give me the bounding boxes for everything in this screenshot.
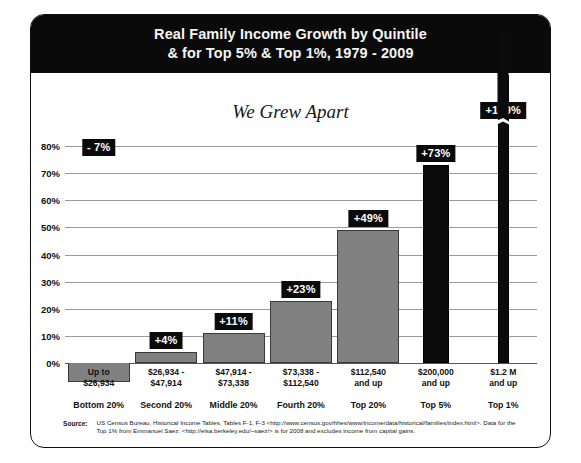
x-axis-category: $26,934 -$47,914Second 20% [128, 367, 204, 388]
x-axis-quintile-label: Top 20% [330, 400, 406, 410]
x-axis-labels: Up to$26,934Bottom 20%$26,934 -$47,914Se… [65, 367, 537, 425]
chart-header-banner: Real Family Income Growth by Quintile & … [31, 15, 550, 73]
bar [270, 301, 332, 363]
chart-card: Real Family Income Growth by Quintile & … [30, 14, 551, 448]
source-text: US Census Bureau, Historical Income Tabl… [97, 419, 516, 436]
source-footnote: Source: US Census Bureau, Historical Inc… [63, 419, 523, 436]
y-axis-tick-label: 10% [41, 330, 60, 341]
x-axis-range-line-2: $47,914 [128, 378, 204, 389]
x-axis-range-line-2: $112,540 [263, 378, 339, 389]
x-axis-range-line-1: $1.2 M [465, 367, 541, 378]
bar-group: +73% [423, 146, 449, 363]
bar-group: +169% [498, 146, 509, 363]
bar-group: - 7% [68, 146, 130, 363]
x-axis-range-line-1: $112,540 [330, 367, 406, 378]
y-axis-tick-label: 30% [41, 276, 60, 287]
source-text-line-2: Top 1% from Emmanuel Saez. <http://elsa.… [97, 427, 516, 435]
x-axis-quintile-label: Bottom 20% [61, 400, 137, 410]
x-axis-quintile-label: Top 5% [398, 400, 474, 410]
bar-value-label: +49% [349, 210, 388, 227]
x-axis-category: $73,338 -$112,540Fourth 20% [263, 367, 339, 388]
x-axis-quintile-label: Middle 20% [196, 400, 272, 410]
x-axis-quintile-label: Second 20% [128, 400, 204, 410]
bar-group: +23% [270, 146, 332, 363]
bar [135, 352, 197, 363]
x-axis-range-line-2: and up [330, 378, 406, 389]
y-axis-tick-label: 80% [41, 141, 60, 152]
x-axis-category: $112,540and upTop 20% [330, 367, 406, 388]
x-axis-range-line-1: Up to [61, 367, 137, 378]
chart-subtitle: We Grew Apart [31, 101, 550, 123]
axis-break-marker [495, 116, 511, 129]
bar-value-label: - 7% [82, 139, 115, 156]
chart-title-line-1: Real Family Income Growth by Quintile [154, 25, 427, 44]
bar [337, 230, 399, 363]
plot-bars: - 7%+4%+11%+23%+49%+73%+169% [65, 146, 537, 363]
bar-value-label: +11% [214, 313, 253, 330]
x-axis-category: $1.2 Mand upTop 1% [465, 367, 541, 388]
x-axis-category: $47,914 -$73,338Middle 20% [196, 367, 272, 388]
bar [203, 333, 265, 363]
x-axis-range-line-2: and up [465, 378, 541, 389]
bar-group: +49% [337, 146, 399, 363]
x-axis-quintile-label: Fourth 20% [263, 400, 339, 410]
y-axis-tick-label: 0% [46, 358, 60, 369]
source-text-line-1: US Census Bureau, Historical Income Tabl… [97, 419, 516, 427]
bar-value-label: +23% [281, 281, 320, 298]
chart-title-line-2: & for Top 5% & Top 1%, 1979 - 2009 [167, 44, 413, 63]
bar-value-label: +73% [416, 145, 455, 162]
bar-value-label: +4% [150, 332, 183, 349]
source-label: Source: [63, 419, 88, 436]
y-axis-tick-label: 40% [41, 249, 60, 260]
y-axis-tick-label: 20% [41, 303, 60, 314]
x-axis-range-line-1: $26,934 - [128, 367, 204, 378]
x-axis-range-line-1: $200,000 [398, 367, 474, 378]
bar-overflow-extension [498, 31, 509, 116]
bar [423, 165, 449, 363]
x-axis-range-line-2: $73,338 [196, 378, 272, 389]
x-axis-category: $200,000and upTop 5% [398, 367, 474, 388]
x-axis-range-line-2: $26,934 [61, 378, 137, 389]
bar-group: +11% [203, 146, 265, 363]
y-axis-tick-label: 60% [41, 195, 60, 206]
x-axis-quintile-label: Top 1% [465, 400, 541, 410]
y-axis-tick-label: 70% [41, 168, 60, 179]
y-axis-tick-label: 50% [41, 222, 60, 233]
bar-group: +4% [135, 146, 197, 363]
x-axis-range-line-1: $73,338 - [263, 367, 339, 378]
zero-baseline [65, 363, 537, 364]
x-axis-category: Up to$26,934Bottom 20% [61, 367, 137, 388]
x-axis-range-line-1: $47,914 - [196, 367, 272, 378]
x-axis-range-line-2: and up [398, 378, 474, 389]
